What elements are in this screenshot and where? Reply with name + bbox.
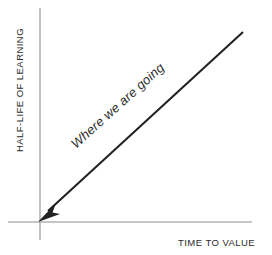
y-axis-label: HALF-LIFE OF LEARNING (12, 2, 28, 152)
chart-canvas (0, 0, 272, 255)
chart-figure: HALF-LIFE OF LEARNING TIME TO VALUE Wher… (0, 0, 272, 255)
trend-arrow-shaft (48, 32, 243, 211)
trend-arrow-head (38, 203, 60, 222)
x-axis-label: TIME TO VALUE (178, 237, 255, 248)
